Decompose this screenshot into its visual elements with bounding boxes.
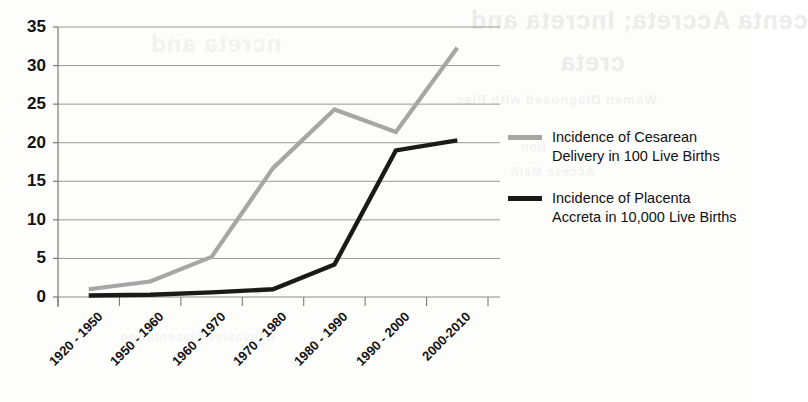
y-axis-tick-label: 5 [12, 249, 46, 266]
y-axis-tick-label: 10 [12, 211, 46, 228]
series-line [89, 48, 458, 289]
legend-entry: Incidence of Placenta Accreta in 10,000 … [508, 189, 746, 228]
legend-color-swatch [508, 196, 542, 201]
legend-entry: Incidence of Cesarean Delivery in 100 Li… [508, 128, 746, 167]
y-axis-tick-label: 30 [12, 57, 46, 74]
y-axis-tick-label: 35 [12, 18, 46, 35]
legend-label: Incidence of Cesarean Delivery in 100 Li… [552, 128, 742, 167]
y-axis-tick-label: 0 [12, 288, 46, 305]
x-axis-ticks [58, 297, 488, 306]
y-axis-tick-label: 20 [12, 134, 46, 151]
y-axis-tick-label: 15 [12, 172, 46, 189]
legend-color-swatch [508, 135, 542, 140]
legend-label: Incidence of Placenta Accreta in 10,000 … [552, 189, 742, 228]
series-line [89, 140, 458, 295]
axes [53, 27, 58, 307]
chart-legend: Incidence of Cesarean Delivery in 100 Li… [508, 128, 746, 249]
y-axis-tick-label: 25 [12, 95, 46, 112]
